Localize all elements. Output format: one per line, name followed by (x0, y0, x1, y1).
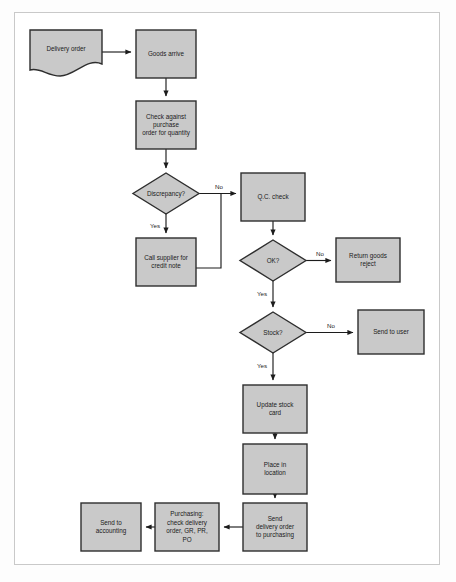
node-check-against-po: Check againstpurchaseorder for quantity (136, 101, 196, 149)
edge-label-ok-yes: Yes (257, 290, 267, 297)
node-place-in-location: Place inlocation (243, 444, 307, 494)
node-label-line: location (264, 469, 286, 476)
node-call-supplier: Call supplier forcredit note (136, 238, 196, 286)
edge-label-ok-no: No (316, 250, 324, 257)
edge-label-discrepancy-yes: Yes (150, 222, 160, 229)
node-label: Goods arrive (148, 50, 185, 57)
node-label-line: order for quantity (142, 129, 190, 137)
node-label: Q.C. check (257, 193, 289, 201)
node-label-line: credit note (151, 262, 181, 269)
node-send-to-user: Send to user (358, 310, 424, 354)
node-label: Send to user (373, 328, 409, 335)
node-label-line: Stock? (263, 328, 283, 335)
node-label: Delivery order (46, 45, 85, 53)
node-send-do-purchasing: Senddelivery orderto purchasing (243, 503, 307, 551)
node-label-line: Goods arrive (148, 50, 185, 57)
node-qc-check: Q.C. check (241, 173, 305, 221)
node-send-to-accounting: Send toaccounting (81, 503, 141, 551)
node-label-line: Place in (264, 460, 287, 467)
node-discrepancy: Discrepancy? (133, 173, 199, 214)
edge-call-supplier-rejoin (196, 194, 221, 269)
node-label-line: card (269, 409, 282, 416)
node-label-line: PO (182, 535, 191, 542)
node-label-line: Send to user (373, 328, 409, 335)
node-goods-arrive: Goods arrive (136, 30, 196, 78)
node-stock: Stock? (240, 312, 306, 353)
node-label-line: check delivery (167, 518, 208, 526)
node-purchasing-check: Purchasing:check deliveryorder, GR, PR,P… (155, 503, 219, 551)
edge-label-stock-no: No (327, 322, 335, 329)
node-label-line: Update stock (257, 400, 295, 408)
node-label-line: Check against (146, 112, 186, 120)
node-label: Stock? (263, 328, 283, 335)
node-label-line: OK? (267, 256, 280, 263)
node-label-line: purchase (153, 121, 179, 129)
node-label-line: Delivery order (46, 45, 85, 53)
node-label-line: Q.C. check (257, 193, 289, 201)
node-ok: OK? (240, 240, 306, 281)
node-label-line: Call supplier for (144, 253, 188, 261)
node-label: OK? (267, 256, 280, 263)
flowchart-canvas: Delivery orderGoods arriveCheck againstp… (0, 0, 456, 582)
nodes-layer: Delivery orderGoods arriveCheck againstp… (30, 30, 424, 551)
edge-label-discrepancy-no: No (215, 183, 223, 190)
node-label: Discrepancy? (147, 189, 186, 197)
node-label-line: accounting (96, 527, 127, 535)
document-shape (30, 30, 102, 76)
node-label: Place inlocation (264, 460, 287, 475)
flowchart-page: Delivery orderGoods arriveCheck againstp… (0, 0, 456, 582)
edge-label-stock-yes: Yes (257, 362, 267, 369)
node-label-line: order, GR, PR, (166, 527, 208, 534)
node-label-line: reject (360, 260, 376, 268)
node-update-stock-card: Update stockcard (243, 385, 307, 433)
node-label-line: Send to (100, 518, 122, 525)
node-label-line: Purchasing: (170, 510, 204, 518)
node-label-line: to purchasing (256, 531, 294, 539)
node-label-line: Send (268, 514, 283, 521)
node-label-line: Return goods (349, 251, 387, 259)
node-label-line: Discrepancy? (147, 189, 186, 197)
node-return-goods: Return goodsreject (336, 238, 400, 282)
node-label-line: delivery order (256, 523, 294, 531)
node-delivery-order: Delivery order (30, 30, 102, 76)
